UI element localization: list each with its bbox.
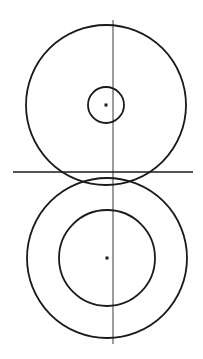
diagram-canvas — [0, 0, 203, 359]
two-circle-systems-diagram — [0, 0, 203, 359]
lower-center-point — [106, 257, 109, 260]
upper-center-point — [105, 104, 108, 107]
